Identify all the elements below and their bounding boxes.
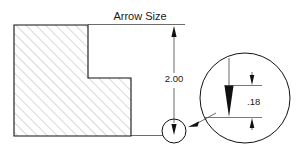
arrowhead-detail-view: .18 — [200, 53, 290, 143]
dimension-arrow-bottom — [171, 124, 176, 135]
arrow-length-label: .18 — [247, 96, 260, 107]
detail-dimension-arrow-bottom — [250, 118, 255, 128]
detail-view-circle — [200, 53, 290, 143]
detail-leader-arrowhead — [188, 121, 199, 127]
detail-leader — [188, 113, 216, 127]
overall-height-label: 2.00 — [165, 73, 184, 84]
detail-leader-line — [196, 113, 216, 124]
part-hatch-fill — [14, 25, 131, 136]
engineering-drawing-canvas: 2.00 Arrow Size — [0, 0, 296, 156]
detail-dimension-arrow-top — [250, 75, 255, 85]
drawing-svg: 2.00 Arrow Size — [0, 0, 296, 156]
dimension-arrow-top — [171, 26, 176, 37]
drawing-title: Arrow Size — [113, 10, 166, 22]
stepped-block-section — [14, 25, 131, 136]
magnified-arrowhead — [224, 85, 233, 117]
